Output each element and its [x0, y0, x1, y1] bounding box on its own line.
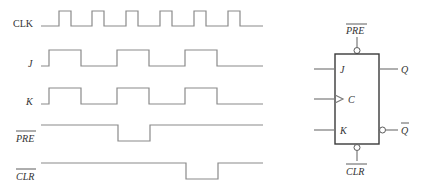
ff-pre-label: PRE [345, 25, 364, 36]
clock-edge-triangle-icon [335, 95, 343, 103]
k-label: K [25, 96, 34, 107]
j-label: J [28, 58, 33, 69]
ff-k-label: K [339, 125, 348, 136]
pre-label: PRE [15, 133, 34, 144]
clr-label: CLR [16, 171, 34, 182]
clk-waveform [41, 11, 263, 26]
ff-qnot-inversion-bubble [380, 127, 386, 133]
j-waveform [41, 50, 263, 66]
ff-qnot-label: Q [401, 125, 409, 136]
flip-flop-symbol: PRE J C K Q Q CLR [314, 24, 409, 177]
timing-diagram: CLK J K PRE CLR [13, 11, 263, 182]
clk-label: CLK [13, 18, 34, 29]
ff-clr-label: CLR [346, 166, 364, 177]
ff-clr-inversion-bubble [354, 145, 360, 151]
pre-waveform [41, 125, 263, 141]
clr-waveform [41, 163, 263, 179]
ff-clock-label: C [348, 94, 355, 105]
ff-pre-inversion-bubble [354, 48, 360, 54]
jk-flip-flop-figure: CLK J K PRE CLR PRE J C K [0, 0, 429, 189]
ff-q-label: Q [401, 64, 409, 75]
ff-j-label: J [340, 64, 345, 75]
k-waveform [41, 88, 263, 104]
